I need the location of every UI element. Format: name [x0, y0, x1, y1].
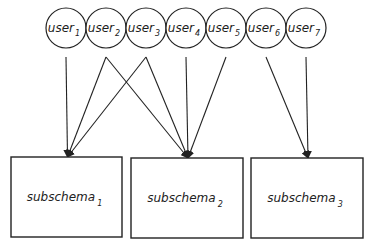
- subschema-box-1: subschema1: [11, 157, 122, 237]
- user-node-2: user2: [86, 8, 126, 48]
- arrow-user3-to-subschema2: [146, 57, 188, 158]
- arrow-user1-to-subschema1: [66, 57, 68, 157]
- user-node-5: user5: [206, 8, 246, 48]
- arrow-user4-to-subschema2: [186, 57, 188, 158]
- arrow-user7-to-subschema3: [306, 57, 308, 158]
- user-node-7: user7: [286, 8, 326, 48]
- subschema-box-2: subschema2: [131, 158, 243, 238]
- user-node-6: user6: [246, 8, 286, 48]
- user-node-3: user3: [126, 8, 166, 48]
- subschema-boxes: subschema1subschema2subschema3: [11, 157, 363, 238]
- arrow-user5-to-subschema2: [188, 57, 226, 158]
- arrow-user6-to-subschema3: [266, 57, 308, 158]
- subschema-box-3: subschema3: [251, 158, 363, 238]
- user-nodes: user1user2user3user4user5user6user7: [46, 8, 326, 48]
- arrow-user2-to-subschema2: [106, 57, 188, 158]
- edges: [66, 57, 308, 158]
- user-subschema-diagram: user1user2user3user4user5user6user7 subs…: [0, 0, 373, 249]
- arrow-user3-to-subschema1: [68, 57, 147, 157]
- user-node-4: user4: [166, 8, 206, 48]
- user-node-1: user1: [46, 8, 86, 48]
- arrow-user2-to-subschema1: [68, 57, 107, 157]
